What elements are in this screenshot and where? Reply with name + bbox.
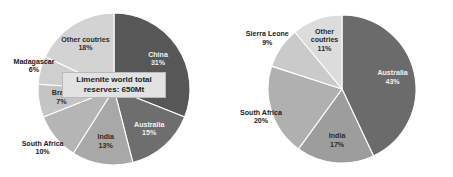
slice-label: South Africa10% bbox=[22, 140, 64, 157]
pie-chart-figure: China31%Australia15%India13%South Africa… bbox=[0, 0, 453, 177]
slice-label: China31% bbox=[148, 51, 168, 68]
slice-label: India17% bbox=[329, 132, 346, 149]
ilmenite-chart-panel: China31%Australia15%India13%South Africa… bbox=[0, 0, 226, 177]
rutile-chart-panel: Australia43%India17%South Africa20%Sierr… bbox=[227, 0, 453, 177]
slice-label: Sierra Leone9% bbox=[246, 30, 289, 47]
ilmenite-note-line-1: Limenite world total bbox=[67, 75, 161, 85]
ilmenite-center-note: Limenite world total reserves: 650Mt bbox=[62, 72, 166, 98]
ilmenite-note-line-2: reserves: 650Mt bbox=[67, 85, 161, 95]
rutile-pie-svg: Australia43%India17%South Africa20%Sierr… bbox=[227, 0, 453, 177]
slice-label: India13% bbox=[97, 133, 114, 150]
